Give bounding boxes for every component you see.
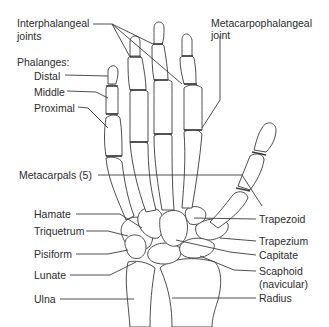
metacarpal-5 — [106, 157, 134, 220]
metacarpal-4 — [130, 141, 156, 212]
distal-phalanx-5 — [108, 66, 118, 84]
distal-phalanx-4 — [130, 36, 140, 56]
label-scaphoid-navicular: (navicular) — [259, 278, 308, 290]
proximal-phalanx-4 — [130, 89, 148, 142]
distal-phalanx-2 — [182, 34, 192, 56]
scaphoid-bone — [180, 238, 215, 258]
label-proximal: Proximal — [34, 102, 75, 114]
label-trapezoid: Trapezoid — [259, 213, 305, 225]
ulna-bone — [126, 261, 155, 327]
label-hamate: Hamate — [34, 208, 71, 220]
label-phalanges: Phalanges: — [17, 56, 70, 68]
distal-phalanx-3 — [154, 22, 164, 44]
label-lunate: Lunate — [34, 269, 66, 281]
label-interphalangeal-joints-line2: joints — [17, 30, 42, 42]
metacarpal-2 — [182, 129, 202, 208]
radius-bone — [160, 259, 221, 327]
label-interphalangeal-joints: Interphalangeal — [17, 17, 89, 29]
pisiform-bone — [125, 235, 146, 259]
hand-anatomy-diagram: Interphalangeal joints Metacarpophalange… — [0, 0, 329, 327]
metacarpal-1-thumb — [210, 192, 248, 228]
label-pisiform: Pisiform — [34, 248, 72, 260]
label-ulna: Ulna — [34, 293, 56, 305]
metacarpal-3 — [154, 133, 174, 210]
label-capitate: Capitate — [259, 249, 298, 261]
capitate-bone — [160, 211, 188, 247]
label-distal: Distal — [34, 70, 60, 82]
proximal-phalanx-5 — [105, 115, 123, 156]
label-metacarpophalangeal-joint: Metacarpophalangeal — [211, 17, 312, 29]
label-trapezium: Trapezium — [259, 235, 308, 247]
middle-phalanx-4 — [128, 55, 146, 90]
middle-phalanx-3 — [152, 43, 168, 80]
middle-phalanx-5 — [106, 85, 118, 114]
proximal-phalanx-2 — [184, 85, 202, 130]
proximal-phalanx-thumb — [238, 154, 264, 190]
label-radius: Radius — [259, 292, 292, 304]
label-triquetrum: Triquetrum — [34, 225, 84, 237]
distal-phalanx-thumb — [254, 123, 276, 152]
label-scaphoid: Scaphoid — [259, 265, 303, 277]
label-metacarpophalangeal-joint-line2: joint — [211, 29, 230, 41]
label-middle: Middle — [34, 86, 65, 98]
label-metacarpals: Metacarpals (5) — [19, 169, 92, 181]
middle-phalanx-2 — [180, 55, 196, 84]
proximal-phalanx-3 — [154, 79, 172, 134]
